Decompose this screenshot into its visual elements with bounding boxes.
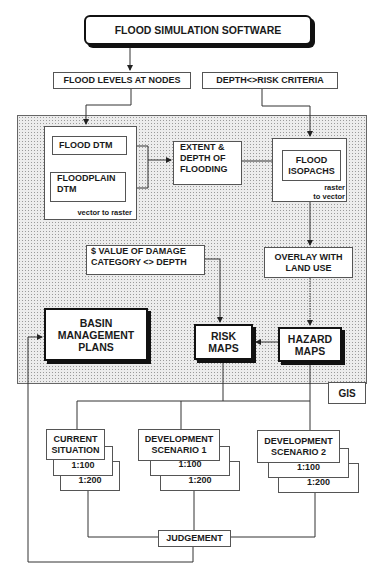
vector-to-raster-note: vector to raster <box>60 208 132 217</box>
flood-dtm-box: FLOOD DTM <box>52 136 127 155</box>
damage-value-box: $ VALUE OF DAMAGE CATEGORY <> DEPTH <box>86 245 205 275</box>
ratio-label: 1:200 <box>188 475 211 486</box>
scenario-dev2-box: DEVELOPMENT SCENARIO 2 <box>257 430 340 463</box>
risk-line-2: MAPS <box>208 342 238 354</box>
scenario-dev1-box: DEVELOPMENT SCENARIO 1 <box>138 429 220 461</box>
raster-note-1: raster <box>300 183 345 192</box>
hazard-line-1: HAZARD <box>288 333 332 345</box>
scenario-name-2: SCENARIO 2 <box>271 447 326 458</box>
ratio-label: 1:100 <box>297 462 320 473</box>
isopachs-line-1: FLOOD <box>296 155 328 166</box>
extent-line-3: FLOODING <box>180 164 228 175</box>
extent-depth-box: EXTENT & DEPTH OF FLOODING <box>173 141 242 185</box>
hazard-line-2: MAPS <box>295 345 325 357</box>
basin-line-3: PLANS <box>78 341 114 353</box>
ratio-label: 1:200 <box>78 475 101 486</box>
risk-maps-box: RISK MAPS <box>194 324 253 360</box>
depth-risk-label: DEPTH<>RISK CRITERIA <box>216 75 324 86</box>
scenario-name-1: DEVELOPMENT <box>145 434 214 445</box>
floodplain-label-1: FLOODPLAIN <box>57 173 116 184</box>
damage-line-1: $ VALUE OF DAMAGE <box>91 246 186 257</box>
overlay-land-use-box: OVERLAY WITH LAND USE <box>264 247 353 278</box>
gis-label: GIS <box>338 388 355 399</box>
title-text: FLOOD SIMULATION SOFTWARE <box>115 25 282 36</box>
basin-line-2: MANAGEMENT <box>58 329 134 341</box>
scenario-name-2: SITUATION <box>52 445 100 456</box>
extent-line-1: EXTENT & <box>180 142 225 153</box>
overlay-line-2: LAND USE <box>285 263 331 274</box>
flood-levels-box: FLOOD LEVELS AT NODES <box>53 72 191 89</box>
basin-line-1: BASIN <box>80 317 113 329</box>
flood-isopachs-box: FLOOD ISOPACHS <box>282 150 341 181</box>
isopachs-line-2: ISOPACHS <box>288 166 334 177</box>
ratio-label: 1:100 <box>71 460 94 471</box>
ratio-label: 1:200 <box>307 477 330 488</box>
scenario-current-box: CURRENT SITUATION <box>46 429 105 460</box>
damage-line-2: CATEGORY <> DEPTH <box>91 257 187 268</box>
flood-levels-label: FLOOD LEVELS AT NODES <box>63 75 180 86</box>
scenario-name-2: SCENARIO 1 <box>151 445 206 456</box>
scenario-name-1: DEVELOPMENT <box>264 436 333 447</box>
gis-label-box: GIS <box>328 382 366 404</box>
flood-dtm-label: FLOOD DTM <box>59 140 113 151</box>
judgement-box: JUDGEMENT <box>158 530 231 547</box>
extent-line-2: DEPTH OF <box>180 153 226 164</box>
depth-risk-box: DEPTH<>RISK CRITERIA <box>202 72 338 89</box>
raster-note-2: to vector <box>300 192 345 201</box>
floodplain-dtm-box: FLOODPLAIN DTM <box>50 172 126 202</box>
overlay-line-1: OVERLAY WITH <box>274 252 342 263</box>
risk-line-1: RISK <box>211 330 236 342</box>
floodplain-label-2: DTM <box>57 184 77 195</box>
flood-simulation-title: FLOOD SIMULATION SOFTWARE <box>84 15 312 45</box>
judgement-label: JUDGEMENT <box>166 533 223 544</box>
hazard-maps-box: HAZARD MAPS <box>278 327 342 362</box>
basin-management-plans-box: BASIN MANAGEMENT PLANS <box>44 308 148 361</box>
scenario-name-1: CURRENT <box>54 434 98 445</box>
